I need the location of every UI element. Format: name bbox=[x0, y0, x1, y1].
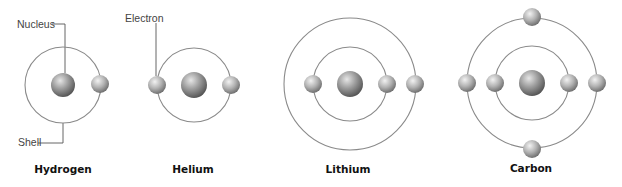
carbon-electron-1 bbox=[486, 74, 504, 92]
lithium-electron-2 bbox=[378, 75, 396, 93]
lithium-nucleus bbox=[337, 71, 363, 97]
atom-shell-diagram: Nucleus Electron Shell Hydrogen Helium L… bbox=[0, 0, 622, 187]
atom-label-carbon: Carbon bbox=[510, 162, 552, 174]
helium-electron-2 bbox=[222, 76, 240, 94]
atoms-group bbox=[25, 8, 606, 158]
carbon-electron-3 bbox=[458, 74, 476, 92]
carbon-electron-5 bbox=[523, 8, 541, 26]
lithium-electron-1 bbox=[304, 75, 322, 93]
hydrogen-electron-1 bbox=[91, 75, 109, 93]
electron-callout: Electron bbox=[125, 12, 164, 24]
carbon-electron-6 bbox=[523, 140, 541, 158]
carbon-nucleus bbox=[519, 70, 545, 96]
helium-nucleus bbox=[181, 72, 207, 98]
hydrogen-nucleus bbox=[51, 73, 75, 97]
atom-label-lithium: Lithium bbox=[326, 163, 371, 175]
shell-leader-line bbox=[38, 123, 63, 143]
atom-label-helium: Helium bbox=[172, 163, 214, 175]
helium-electron-1 bbox=[148, 76, 166, 94]
atom-label-hydrogen: Hydrogen bbox=[34, 163, 92, 175]
atom-hydrogen bbox=[25, 47, 109, 123]
atom-carbon bbox=[458, 8, 606, 158]
carbon-electron-4 bbox=[588, 74, 606, 92]
carbon-electron-2 bbox=[560, 74, 578, 92]
lithium-electron-3 bbox=[406, 75, 424, 93]
atom-lithium bbox=[284, 18, 424, 150]
shell-callout: Shell bbox=[18, 136, 41, 148]
nucleus-callout: Nucleus bbox=[17, 18, 55, 30]
atom-helium bbox=[148, 48, 240, 122]
